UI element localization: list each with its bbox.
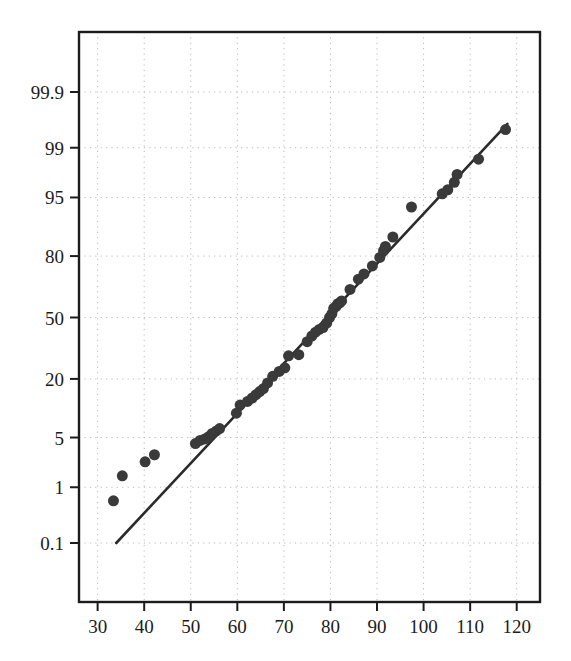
x-tick-label-60: 60	[228, 616, 247, 637]
data-point	[345, 284, 356, 295]
data-point	[283, 350, 294, 361]
x-tick-label-100: 100	[409, 616, 438, 637]
data-point	[452, 169, 463, 180]
y-tick-label-50: 50	[45, 308, 64, 329]
data-point	[140, 456, 151, 467]
y-tick-label-80: 80	[45, 246, 64, 267]
y-tick-label-5: 5	[55, 428, 65, 449]
data-point	[108, 495, 119, 506]
data-point	[358, 268, 369, 279]
y-tick-label-20: 20	[45, 369, 64, 390]
x-tick-label-30: 30	[88, 616, 107, 637]
normal-probability-plot: 304050607080901001101200.115205080959999…	[0, 0, 571, 661]
x-tick-label-90: 90	[368, 616, 387, 637]
data-point	[500, 124, 511, 135]
chart-canvas: 304050607080901001101200.115205080959999…	[0, 0, 571, 661]
data-point	[387, 232, 398, 243]
y-tick-label-95: 95	[45, 187, 64, 208]
data-point	[406, 202, 417, 213]
data-point	[293, 349, 304, 360]
y-tick-label-99.9: 99.9	[31, 82, 64, 103]
data-point	[279, 362, 290, 373]
x-tick-label-50: 50	[181, 616, 200, 637]
data-point	[149, 449, 160, 460]
chart-background	[0, 0, 571, 661]
x-tick-label-80: 80	[321, 616, 340, 637]
x-tick-label-40: 40	[135, 616, 154, 637]
data-point	[117, 470, 128, 481]
data-point	[473, 154, 484, 165]
data-point	[214, 423, 225, 434]
data-point	[336, 295, 347, 306]
data-point	[380, 241, 391, 252]
y-tick-label-1: 1	[55, 477, 65, 498]
x-tick-label-70: 70	[274, 616, 293, 637]
data-point	[367, 260, 378, 271]
y-tick-label-0.1: 0.1	[40, 533, 64, 554]
y-tick-label-99: 99	[45, 138, 64, 159]
x-tick-label-120: 120	[502, 616, 531, 637]
x-tick-label-110: 110	[456, 616, 484, 637]
